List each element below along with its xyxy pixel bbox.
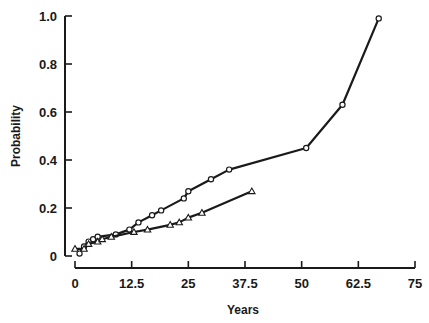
circle-marker [136,220,141,225]
y-tick-label: 0.8 [39,57,57,72]
y-axis: 00.20.40.60.81.0 [39,9,72,264]
y-axis-title: Probability [9,105,23,167]
circle-marker [340,102,345,107]
x-axis: 012.52537.55062.575 [71,261,422,291]
circle-marker [186,189,191,194]
series-circles [77,16,381,256]
x-axis-title: Years [227,303,259,317]
circle-marker [227,167,232,172]
x-tick-label: 50 [294,276,308,291]
y-tick-label: 1.0 [39,9,57,24]
series-triangles [72,188,255,251]
x-tick-label: 25 [181,276,195,291]
circle-marker [208,177,213,182]
y-tick-label: 0.6 [39,105,57,120]
x-tick-label: 37.5 [232,276,257,291]
circle-marker [304,145,309,150]
circle-marker [149,213,154,218]
x-tick-label: 0 [71,276,78,291]
circle-marker [127,227,132,232]
x-tick-label: 75 [408,276,422,291]
circle-marker [77,251,82,256]
circle-marker [181,196,186,201]
series-layer [72,16,382,256]
probability-chart: 00.20.40.60.81.0 012.52537.55062.575 Yea… [0,0,429,323]
triangle-marker [249,188,255,194]
y-tick-label: 0.4 [39,153,58,168]
y-tick-label: 0.2 [39,201,57,216]
circle-marker [376,16,381,21]
x-tick-label: 12.5 [119,276,144,291]
circle-marker [159,208,164,213]
x-tick-label: 62.5 [346,276,371,291]
y-tick-label: 0 [50,249,57,264]
